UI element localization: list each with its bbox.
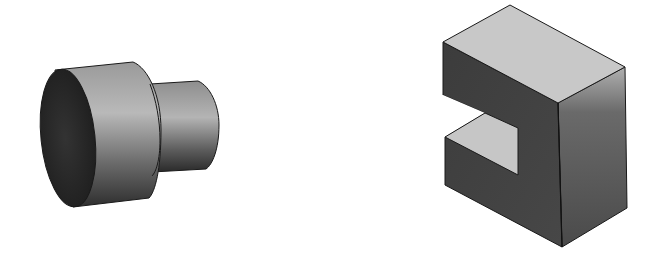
figure-canvas: Isometric solid models: [0, 0, 668, 271]
stepped-cylinder: [34, 62, 219, 209]
c-block: [443, 5, 627, 247]
figure-svg: [0, 0, 668, 271]
